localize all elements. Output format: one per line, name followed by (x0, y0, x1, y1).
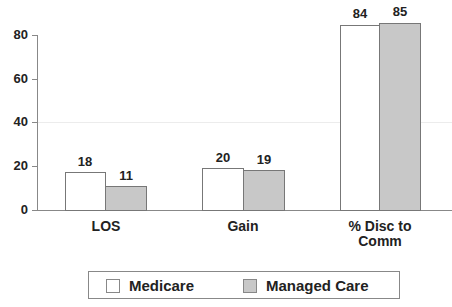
value-label: 84 (340, 7, 380, 21)
y-tick (32, 210, 37, 211)
legend-swatch-managed-care (243, 279, 257, 293)
y-tick-label: 0 (0, 203, 28, 217)
y-tick-label: 80 (0, 28, 28, 42)
value-label: 19 (244, 153, 284, 167)
legend-label-medicare: Medicare (129, 277, 194, 294)
y-tick (32, 166, 37, 167)
y-tick-label: 20 (0, 159, 28, 173)
y-tick (32, 122, 37, 123)
category-label-gain: Gain (193, 218, 293, 234)
category-label-disc-line2: Comm (330, 233, 430, 249)
y-tick-label: 40 (0, 115, 28, 129)
legend-swatch-medicare (106, 279, 120, 293)
value-label: 11 (106, 169, 146, 183)
y-tick-label: 60 (0, 72, 28, 86)
bar-los-managed-care (105, 186, 147, 211)
bar-gain-medicare (202, 168, 244, 211)
value-label: 18 (65, 155, 105, 169)
value-label: 85 (380, 5, 420, 19)
y-axis (37, 35, 38, 210)
bar-disc-managed-care (379, 23, 421, 211)
bar-gain-managed-care (243, 170, 285, 211)
value-label: 20 (203, 151, 243, 165)
bar-disc-medicare (340, 25, 380, 211)
y-tick (32, 79, 37, 80)
legend: Medicare Managed Care (88, 271, 400, 299)
category-label-disc: % Disc to (330, 218, 430, 234)
bar-los-medicare (65, 172, 106, 211)
legend-label-managed-care: Managed Care (266, 277, 369, 294)
category-label-los: LOS (56, 218, 156, 234)
y-tick (32, 35, 37, 36)
